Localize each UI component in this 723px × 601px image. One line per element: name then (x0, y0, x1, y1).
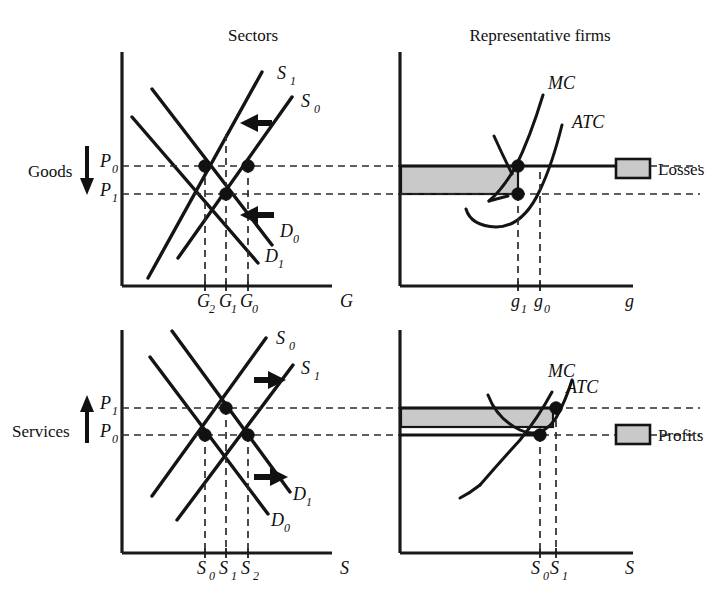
svg-text:1: 1 (112, 191, 118, 205)
panel-goods-sector: S 1 S 0 D 0 D 1 G 2 G 1 G 0 G (28, 52, 700, 316)
svg-text:S: S (197, 558, 206, 578)
figure-canvas: Sectors Representative firms (0, 0, 723, 601)
panel4-profits-region (401, 408, 553, 427)
panel1-equilibrium-dot-b (242, 160, 254, 172)
panel3-curve-s0 (152, 338, 266, 496)
row-label-services: Services (12, 422, 70, 441)
panel4-xtick-label-s1: S 1 (550, 558, 568, 583)
panel-services-sector: S 0 S 1 D 1 D 0 S 0 S 1 S 2 S (12, 328, 700, 583)
row-label-goods: Goods (28, 162, 72, 181)
svg-text:1: 1 (112, 404, 118, 418)
svg-text:0: 0 (284, 521, 290, 535)
panel2-xtick-label-g0: g 0 (534, 291, 550, 316)
panel4-curve-mc-tail (460, 485, 480, 498)
svg-text:0: 0 (289, 339, 295, 353)
svg-text:1: 1 (231, 302, 237, 316)
panel1-curve-d1 (132, 117, 258, 263)
panel3-label-d1: D 1 (292, 484, 312, 509)
svg-text:P: P (99, 151, 111, 171)
svg-text:0: 0 (252, 302, 258, 316)
column-title-sectors: Sectors (228, 26, 278, 45)
panel4-point-p1-s1 (550, 402, 562, 414)
panel2-axis-label-x: g (625, 291, 634, 311)
svg-text:S: S (219, 558, 228, 578)
svg-text:0: 0 (209, 569, 215, 583)
panel1-xtick-label-g0: G 0 (240, 291, 258, 316)
svg-text:P: P (99, 180, 111, 200)
panel-goods-firm: MC ATC g 1 g 0 g Losses (400, 52, 704, 316)
svg-text:1: 1 (314, 369, 320, 383)
panel3-xtick-label-s0: S 0 (197, 558, 215, 583)
legend-swatch-losses (616, 159, 650, 178)
svg-text:2: 2 (209, 302, 215, 316)
panel4-label-atc: ATC (565, 377, 599, 397)
panel1-price-label-p0: P 0 (99, 151, 118, 176)
column-title-representative-firms: Representative firms (469, 26, 610, 45)
legend-swatch-profits (616, 425, 650, 444)
panel4-point-p0-s0 (534, 429, 546, 441)
svg-text:0: 0 (543, 569, 549, 583)
panel2-xtick-label-g1: g 1 (511, 291, 527, 316)
panel3-xtick-label-s2: S 2 (241, 558, 259, 583)
panel3-shift-arrow-supply-right (254, 371, 286, 389)
svg-text:S: S (241, 558, 250, 578)
legend-label-losses: Losses (658, 160, 704, 179)
panel4-axis-label-x: S (625, 558, 634, 578)
svg-text:g: g (511, 291, 520, 311)
svg-text:D: D (292, 484, 306, 504)
panel3-curve-s1 (177, 365, 293, 520)
panel3-price-label-p1: P 1 (99, 393, 118, 418)
panel3-label-s0: S 0 (276, 328, 295, 353)
svg-text:1: 1 (278, 257, 284, 271)
panel3-xtick-label-s1: S 1 (219, 558, 237, 583)
svg-text:D: D (279, 221, 293, 241)
panel1-label-d1: D 1 (264, 246, 284, 271)
panel3-label-s1: S 1 (301, 358, 320, 383)
svg-text:S: S (277, 63, 286, 83)
svg-text:P: P (99, 393, 111, 413)
panel3-axis-label-x: S (340, 558, 349, 578)
svg-text:1: 1 (231, 569, 237, 583)
svg-text:1: 1 (306, 495, 312, 509)
panel1-xtick-label-g1: G 1 (219, 291, 237, 316)
panel2-label-mc: MC (547, 73, 576, 93)
panel1-equilibrium-dot-a (199, 160, 211, 172)
svg-text:1: 1 (562, 569, 568, 583)
panel3-label-d0: D 0 (270, 510, 290, 535)
svg-text:S: S (550, 558, 559, 578)
svg-text:D: D (264, 246, 278, 266)
panel2-point-p1-g1 (512, 188, 524, 200)
panel-services-firm: MC ATC S 0 S 1 S Profits (400, 330, 703, 583)
panel3-price-direction-arrow-up (80, 395, 94, 443)
svg-text:0: 0 (314, 102, 320, 116)
svg-text:0: 0 (293, 232, 299, 246)
legend-label-profits: Profits (658, 426, 703, 445)
svg-text:0: 0 (112, 162, 118, 176)
panel4-xtick-label-s0: S 0 (531, 558, 549, 583)
panel1-price-label-p1: P 1 (99, 180, 118, 205)
svg-text:0: 0 (112, 432, 118, 446)
svg-text:S: S (276, 328, 285, 348)
panel1-axis-label-x: G (340, 291, 353, 311)
panel2-point-p0-g1 (512, 160, 524, 172)
panel1-label-s1: S 1 (277, 63, 296, 88)
svg-text:g: g (534, 291, 543, 311)
svg-text:S: S (531, 558, 540, 578)
panel3-equilibrium-dot-b (199, 429, 211, 441)
svg-text:S: S (301, 91, 310, 111)
economics-diagram: Sectors Representative firms (0, 0, 723, 601)
panel3-price-label-p0: P 0 (99, 421, 118, 446)
svg-text:0: 0 (544, 302, 550, 316)
svg-text:1: 1 (521, 302, 527, 316)
panel1-equilibrium-dot-c (220, 188, 232, 200)
panel1-label-d0: D 0 (279, 221, 299, 246)
svg-text:P: P (99, 421, 111, 441)
panel2-label-atc: ATC (571, 112, 605, 132)
panel3-equilibrium-dot-a (220, 402, 232, 414)
panel1-price-direction-arrow-down (80, 146, 94, 195)
svg-text:2: 2 (253, 569, 259, 583)
svg-text:1: 1 (290, 74, 296, 88)
panel3-equilibrium-dot-c (242, 429, 254, 441)
svg-text:D: D (270, 510, 284, 530)
panel1-label-s0: S 0 (301, 91, 320, 116)
